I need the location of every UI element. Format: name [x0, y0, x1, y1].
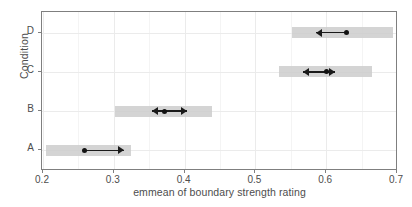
arrow-right-icon-a — [118, 146, 124, 154]
gridline-vertical-major-0 — [43, 12, 44, 169]
gridline-vertical-major-2 — [185, 12, 186, 169]
emmeans-comparison-chart: Condition 0.20.30.40.50.60.7ABCD emmean … — [0, 0, 412, 207]
arrow-right-icon-b — [181, 107, 187, 115]
arrow-left-icon-b — [152, 107, 158, 115]
y-tick-label-d: D — [12, 25, 34, 36]
y-axis-title: Condition — [18, 0, 30, 116]
arrow-left-icon-d — [316, 29, 322, 37]
plot-panel — [41, 11, 397, 170]
plot-area — [42, 12, 396, 169]
y-tick-label-c: C — [12, 64, 34, 75]
x-tick-label-0-3: 0.3 — [93, 174, 133, 185]
y-tick-d — [38, 32, 41, 33]
x-tick-label-0-2: 0.2 — [22, 174, 62, 185]
gridline-vertical-minor-2 — [220, 12, 221, 169]
x-tick-4 — [325, 170, 326, 173]
x-axis-title: emmean of boundary strength rating — [41, 186, 398, 198]
emmean-point-b — [162, 109, 167, 114]
y-tick-b — [38, 110, 41, 111]
y-tick-c — [38, 71, 41, 72]
x-tick-label-0-5: 0.5 — [234, 174, 274, 185]
x-tick-label-0-4: 0.4 — [164, 174, 204, 185]
gridline-horizontal-b — [42, 111, 396, 112]
x-tick-0 — [42, 170, 43, 173]
y-tick-label-b: B — [12, 103, 34, 114]
gridline-vertical-major-3 — [255, 12, 256, 169]
x-tick-label-0-7: 0.7 — [376, 174, 412, 185]
y-tick-label-a: A — [12, 142, 34, 153]
x-tick-label-0-6: 0.6 — [305, 174, 345, 185]
y-tick-a — [38, 149, 41, 150]
x-tick-5 — [396, 170, 397, 173]
gridline-vertical-minor-1 — [149, 12, 150, 169]
x-tick-2 — [184, 170, 185, 173]
arrow-right-icon-c — [329, 68, 335, 76]
arrow-left-icon-c — [303, 68, 309, 76]
x-tick-1 — [113, 170, 114, 173]
x-tick-3 — [254, 170, 255, 173]
